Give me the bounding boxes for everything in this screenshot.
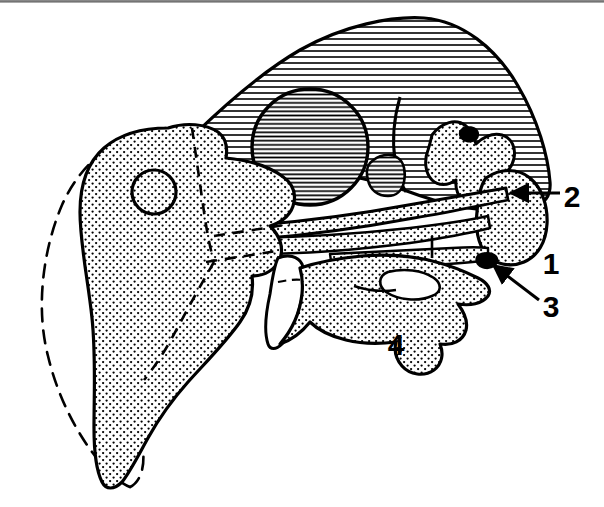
anatomical-figure: 1 2 3 4 — [0, 0, 604, 507]
leader-line-3 — [493, 265, 539, 300]
label-3: 3 — [543, 290, 560, 323]
label-1: 1 — [543, 247, 560, 280]
label-2: 2 — [564, 180, 581, 213]
label-4: 4 — [388, 328, 405, 361]
figure-canvas: 1 2 3 4 — [0, 0, 604, 507]
opercle-stippled-region — [80, 125, 295, 488]
